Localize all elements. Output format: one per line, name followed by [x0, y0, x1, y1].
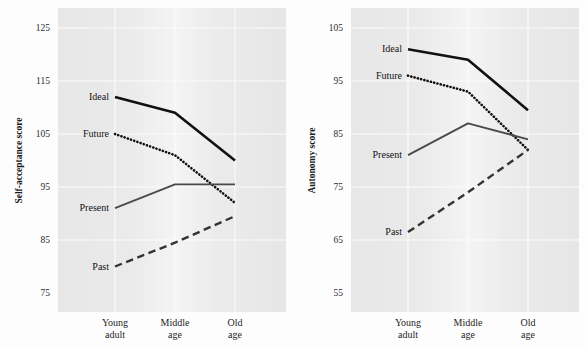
y-axis-title: Autonomy score: [307, 127, 317, 193]
series-label-past: Past: [385, 226, 402, 237]
x-category-label: age: [168, 329, 182, 340]
series-label-future: Future: [376, 70, 403, 81]
y-tick-label: 125: [36, 23, 51, 33]
series-label-ideal: Ideal: [382, 43, 402, 54]
y-tick-label: 105: [329, 23, 344, 33]
y-tick-label: 85: [41, 235, 51, 245]
y-tick-label: 85: [334, 129, 344, 139]
y-tick-label: 115: [36, 76, 50, 86]
y-tick-label: 75: [334, 182, 344, 192]
x-category-label: Middle: [454, 317, 483, 328]
x-category-label: Young: [395, 317, 421, 328]
series-label-ideal: Ideal: [89, 91, 109, 102]
chart-panel-autonomy: 5565758595105Autonomy scoreIdealFuturePr…: [293, 0, 585, 349]
y-tick-label: 105: [36, 129, 51, 139]
series-label-past: Past: [92, 261, 109, 272]
autonomy-line-chart: 5565758595105Autonomy scoreIdealFuturePr…: [293, 0, 585, 349]
x-category-label: Middle: [161, 317, 190, 328]
y-tick-label: 75: [41, 288, 51, 298]
x-category-label: age: [228, 329, 242, 340]
series-label-present: Present: [80, 202, 110, 213]
self-acceptance-line-chart: 758595105115125Self-acceptance scoreIdea…: [0, 0, 292, 349]
y-tick-label: 95: [334, 76, 344, 86]
series-label-future: Future: [83, 128, 110, 139]
y-tick-label: 65: [334, 235, 344, 245]
x-category-label: Old: [521, 317, 536, 328]
x-category-label: Old: [228, 317, 243, 328]
series-label-present: Present: [373, 149, 403, 160]
x-category-label: age: [521, 329, 535, 340]
y-tick-label: 95: [41, 182, 51, 192]
x-category-label: adult: [398, 329, 418, 340]
chart-panel-self-acceptance: 758595105115125Self-acceptance scoreIdea…: [0, 0, 292, 349]
x-category-label: Young: [102, 317, 128, 328]
figure-canvas: 758595105115125Self-acceptance scoreIdea…: [0, 0, 585, 349]
y-axis-title: Self-acceptance score: [14, 117, 24, 203]
x-category-label: adult: [105, 329, 125, 340]
x-category-label: age: [461, 329, 475, 340]
y-tick-label: 55: [334, 288, 344, 298]
